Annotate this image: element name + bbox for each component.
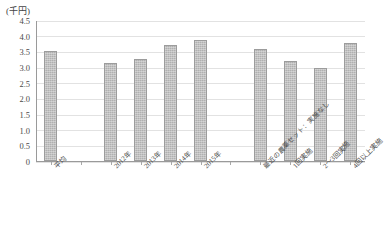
y-axis-tick-label: 1.5 — [19, 110, 30, 120]
y-axis-tick-label: 4.0 — [19, 32, 30, 42]
y-axis-tick-label: 1.0 — [19, 126, 30, 136]
y-axis-tick-labels: 00.51.01.52.02.53.03.54.04.5 — [0, 21, 33, 162]
bar[interactable] — [44, 51, 57, 161]
y-axis-tick-label: 3.0 — [19, 63, 30, 73]
y-axis-tick-label: 0.5 — [19, 141, 30, 151]
bar-series — [36, 21, 365, 162]
bar[interactable] — [254, 49, 267, 161]
y-axis-tick-label: 3.5 — [19, 47, 30, 57]
y-axis-tick-label: 2.5 — [19, 79, 30, 89]
y-axis-tick-label: 0 — [26, 157, 30, 167]
x-axis-category-labels: 平均2012年2013年2014年2015年最近の農薬セット：実施なし1回実施2… — [36, 163, 365, 247]
plot-area — [36, 21, 365, 162]
bar[interactable] — [104, 63, 117, 161]
bar[interactable] — [194, 40, 207, 161]
y-axis-tick-label: 4.5 — [19, 16, 30, 26]
y-axis-tick-label: 2.0 — [19, 94, 30, 104]
bar[interactable] — [134, 59, 147, 161]
bar[interactable] — [164, 45, 177, 161]
